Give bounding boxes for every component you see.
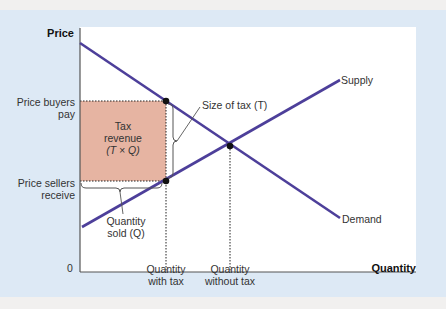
quantity-sold-line2: sold (Q) (98, 227, 154, 239)
tax-revenue-line1: Tax (80, 120, 166, 132)
quantity-with-tax-label: Quantity with tax (136, 263, 196, 287)
demand-label: Demand (342, 213, 382, 225)
origin-label: 0 (67, 262, 73, 274)
quantity-with-tax-line1: Quantity (136, 263, 196, 275)
quantity-without-tax-line1: Quantity (198, 263, 262, 275)
seller-price-point (163, 178, 170, 185)
quantity-without-tax-label: Quantity without tax (198, 263, 262, 287)
quantity-with-tax-line2: with tax (136, 275, 196, 287)
price-buyers-line1: Price buyers (0, 96, 75, 108)
price-buyers-line2: pay (0, 108, 75, 120)
price-sellers-line2: receive (0, 189, 75, 201)
equilibrium-point (227, 143, 234, 150)
price-sellers-line1: Price sellers (0, 177, 75, 189)
buyer-price-point (163, 98, 170, 105)
price-sellers-label: Price sellers receive (0, 177, 75, 201)
price-buyers-label: Price buyers pay (0, 96, 75, 120)
tax-revenue-label: Tax revenue (T × Q) (80, 120, 166, 156)
tax-revenue-line3: (T × Q) (80, 144, 166, 156)
tax-revenue-line2: revenue (80, 132, 166, 144)
quantity-sold-label: Quantity sold (Q) (98, 215, 154, 239)
quantity-without-tax-line2: without tax (198, 275, 262, 287)
quantity-sold-brace (81, 183, 162, 192)
x-axis-label: Quantity (350, 262, 416, 274)
quantity-sold-line1: Quantity (98, 215, 154, 227)
size-of-tax-label: Size of tax (T) (202, 99, 267, 111)
supply-label: Supply (341, 74, 373, 86)
size-of-tax-brace (168, 104, 177, 178)
y-axis-label: Price (30, 27, 74, 39)
